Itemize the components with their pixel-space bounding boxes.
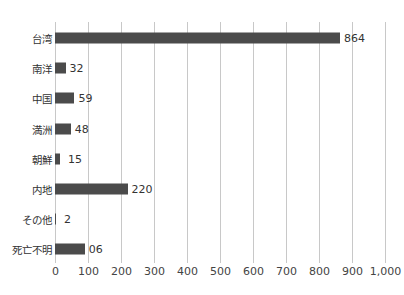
- category-label: その他: [22, 212, 52, 227]
- category-label: 満洲: [32, 121, 52, 136]
- x-tick-label: 200: [111, 265, 132, 278]
- x-tick-label: 0: [52, 265, 59, 278]
- x-tick-label: 1,000: [370, 265, 402, 278]
- bar: [55, 123, 71, 134]
- bar: [55, 153, 60, 164]
- gridline: [352, 22, 353, 263]
- bar: [55, 33, 340, 44]
- x-tick-label: 400: [177, 265, 198, 278]
- gridline: [220, 22, 221, 263]
- gridline: [253, 22, 254, 263]
- bar: [55, 214, 56, 225]
- gridline: [187, 22, 188, 263]
- x-tick-label: 700: [276, 265, 297, 278]
- category-label: 中国: [32, 91, 52, 106]
- x-tick-label: 100: [78, 265, 99, 278]
- x-tick-label: 300: [144, 265, 165, 278]
- category-label: 台湾: [32, 31, 52, 46]
- category-label: 内地: [32, 182, 52, 197]
- data-label: 15: [68, 152, 82, 165]
- category-label: 南洋: [32, 61, 52, 76]
- data-label: 864: [344, 32, 365, 45]
- gridline: [286, 22, 287, 263]
- bar: [55, 184, 128, 195]
- gridline: [319, 22, 320, 263]
- x-tick-label: 600: [243, 265, 264, 278]
- data-label: 06: [89, 243, 103, 256]
- gridline: [154, 22, 155, 263]
- bar: [55, 93, 74, 104]
- gridline: [121, 22, 122, 263]
- bar-chart: 01002003004005006007008009001,000台湾864南洋…: [0, 0, 404, 295]
- gridline: [55, 22, 56, 263]
- data-label: 32: [70, 62, 84, 75]
- category-label: 死亡不明: [12, 242, 52, 257]
- data-label: 220: [132, 183, 153, 196]
- gridline: [385, 22, 386, 263]
- x-tick-label: 900: [342, 265, 363, 278]
- bar: [55, 63, 66, 74]
- bar: [55, 244, 85, 255]
- data-label: 2: [64, 213, 71, 226]
- gridline: [88, 22, 89, 263]
- data-label: 48: [75, 122, 89, 135]
- category-label: 朝鮮: [32, 151, 52, 166]
- x-tick-label: 500: [210, 265, 231, 278]
- data-label: 59: [78, 92, 92, 105]
- x-tick-label: 800: [309, 265, 330, 278]
